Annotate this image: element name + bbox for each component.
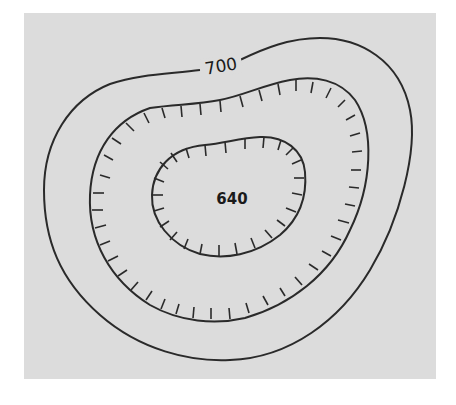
- center-elevation-label: 640: [216, 190, 247, 208]
- contour-label-700: 700: [203, 53, 238, 78]
- contour-diagram: 700 640: [0, 0, 456, 405]
